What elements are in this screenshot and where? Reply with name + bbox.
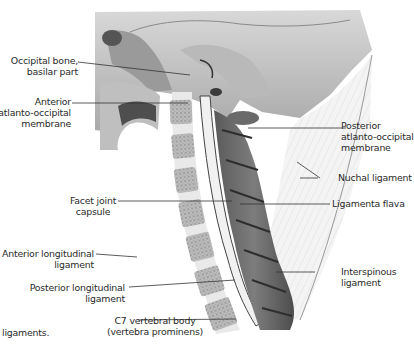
mandible — [100, 83, 160, 151]
label-occipital-bone: Occipital bone, basilar part — [11, 55, 78, 77]
label-nuchal-ligament: Nuchal ligament — [338, 172, 412, 183]
label-facet-joint-capsule: Facet joint capsule — [69, 195, 117, 217]
label-line: Interspinous — [341, 266, 397, 277]
label-line: basilar part — [11, 66, 78, 77]
label-line: membrane — [0, 118, 71, 129]
caption-fragment: ligaments. — [2, 327, 49, 338]
label-anterior-longitudinal-ligament: Anterior longitudinal ligament — [2, 248, 94, 270]
label-interspinous-ligament: Interspinous ligament — [341, 266, 397, 288]
label-line: Anterior longitudinal — [2, 248, 94, 259]
label-line: C7 vertebral body — [106, 315, 204, 326]
label-line: capsule — [69, 206, 117, 217]
label-posterior-longitudinal-ligament: Posterior longitudinal ligament — [30, 282, 125, 304]
label-line: atlanto-occipital — [341, 131, 414, 142]
label-line: ligament — [341, 277, 397, 288]
label-c7-vertebral-body: C7 vertebral body (vertebra prominens) — [106, 315, 204, 337]
label-line: Posterior longitudinal — [30, 282, 125, 293]
label-line: Anterior — [0, 96, 71, 107]
label-line: membrane — [341, 142, 414, 153]
label-line: Nuchal ligament — [338, 172, 412, 183]
label-line: (vertebra prominens) — [106, 326, 204, 337]
label-line: Facet joint — [69, 195, 117, 206]
label-line: Posterior — [341, 120, 414, 131]
label-line: ligament — [30, 293, 125, 304]
label-anterior-atlanto-occipital-membrane: Anterior atlanto-occipital membrane — [0, 96, 71, 129]
label-line: ligament — [2, 259, 94, 270]
label-posterior-atlanto-occipital-membrane: Posterior atlanto-occipital membrane — [341, 120, 414, 153]
label-line: atlanto-occipital — [0, 107, 71, 118]
label-ligamenta-flava: Ligamenta flava — [332, 198, 405, 209]
label-line: Ligamenta flava — [332, 198, 405, 209]
label-line: Occipital bone, — [11, 55, 78, 66]
